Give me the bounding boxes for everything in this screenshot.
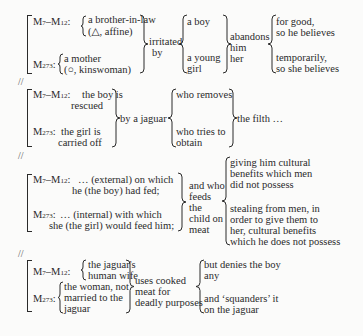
label-m273: M273:: [33, 126, 56, 139]
row-text: rescued: [71, 100, 103, 111]
brace-icon: [81, 259, 87, 281]
result: so she believes: [276, 63, 339, 74]
brace-icon: [179, 14, 187, 74]
verb: by: [152, 47, 163, 58]
subject-line: jaguar: [64, 303, 90, 314]
label-m7-m12: M7–M12:: [33, 266, 70, 279]
clause: who removes: [176, 89, 232, 100]
verb: deadly purposes: [135, 297, 203, 308]
brace-icon: [196, 259, 204, 314]
subject-line: married to the: [64, 292, 123, 303]
left-bracket: [27, 260, 32, 312]
brace-icon: [168, 88, 176, 148]
clause: obtain: [176, 137, 202, 148]
clause: who tries to: [176, 126, 226, 137]
result: did not possess: [230, 179, 294, 190]
result: but denies the boy: [204, 259, 281, 270]
row-text: she (the girl) would feed him;: [49, 220, 174, 231]
result: for good,: [276, 16, 315, 27]
object: girl: [187, 63, 202, 74]
object: a boy: [187, 16, 210, 27]
action: her: [230, 53, 243, 64]
closing-brace-icon: [229, 88, 237, 148]
result: which he does not possess: [230, 236, 340, 247]
brace-icon: [268, 14, 276, 74]
row-text: carried off: [58, 137, 102, 148]
row-text: … (external) on which: [78, 174, 173, 185]
separator-mark: //: [18, 76, 24, 87]
result: giving him cultural: [230, 157, 311, 168]
brace-icon: [81, 15, 87, 37]
closing-brace-icon: [126, 259, 134, 314]
middle: child on: [189, 213, 223, 224]
action: him: [230, 42, 246, 53]
object: the filth …: [237, 113, 283, 124]
closing-brace-icon: [140, 14, 148, 74]
subject-line: a mother: [64, 53, 101, 64]
result: temporarily,: [276, 52, 327, 63]
label-m273: M273:: [33, 59, 56, 72]
result: so he believes: [276, 27, 335, 38]
label-m7-m12: M7–M12:: [33, 174, 70, 187]
left-bracket: [27, 89, 32, 147]
verb: meat for: [135, 286, 170, 297]
result: order to give them to: [230, 214, 318, 225]
middle: and who: [189, 180, 225, 191]
result: stealing from men, in: [230, 203, 320, 214]
brace-icon: [222, 156, 230, 246]
closing-brace-icon: [112, 88, 120, 148]
left-bracket: [27, 15, 32, 74]
result: her, cultural benefits: [230, 225, 316, 236]
verb: uses cooked: [135, 275, 186, 286]
closing-brace-icon: [178, 172, 186, 232]
left-bracket: [27, 174, 32, 232]
subject-line: the woman, not: [64, 281, 129, 292]
middle: feeds: [189, 191, 211, 202]
label-m7-m12: M7–M12:: [33, 89, 70, 102]
separator-mark: //: [18, 248, 24, 259]
label-m7-m12: M7–M12:: [33, 16, 70, 29]
label-m273: M273:: [33, 293, 56, 306]
action: abandons: [230, 31, 270, 42]
verb: irritated: [149, 36, 182, 47]
result: benefits which men: [230, 168, 312, 179]
row-text: the girl is: [61, 126, 101, 137]
middle: the: [189, 202, 202, 213]
object: a young: [187, 52, 221, 63]
middle: meat: [189, 224, 209, 235]
row-text: … (internal) with which: [60, 209, 162, 220]
result: any: [204, 270, 219, 281]
subject-line: (△, affine): [88, 26, 133, 37]
agent: by a jaguar: [120, 113, 167, 124]
subject-line: (○, kinswoman): [64, 64, 131, 75]
row-text: he (the boy) had fed;: [72, 185, 159, 196]
result: and ‘squanders’ it: [204, 293, 278, 304]
separator-mark: //: [18, 150, 24, 161]
result: on the jaguar: [204, 304, 259, 315]
